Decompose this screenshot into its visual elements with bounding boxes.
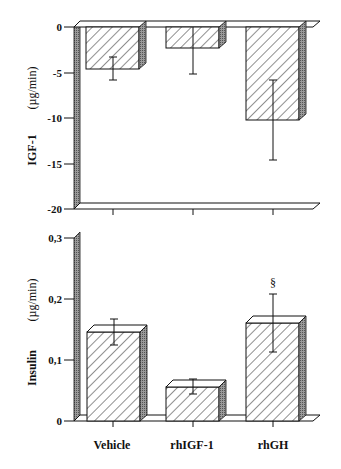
bar-vehicle-insulin xyxy=(87,319,147,421)
insulin-chart: 0 0,1 0,2 0,3 Insulin (µg/min) xyxy=(25,232,320,452)
svg-text:Insulin: Insulin xyxy=(25,350,39,386)
tick-neg15: -15 xyxy=(47,158,62,170)
bar-rhigf1-insulin xyxy=(166,379,226,421)
igf1-y-ticks: 0 -5 -10 -15 -20 xyxy=(47,21,74,215)
svg-text:(µg/min): (µg/min) xyxy=(25,279,39,322)
insulin-y-label: Insulin (µg/min) xyxy=(25,279,39,386)
figure: 0 -5 -10 -15 -20 IGF-1 (µg/min) xyxy=(0,0,341,469)
x-label-vehicle: Vehicle xyxy=(94,438,132,452)
igf1-y-label: IGF-1 (µg/min) xyxy=(25,67,39,166)
zero-plane xyxy=(74,21,320,27)
bar-rhigf1-igf1 xyxy=(166,21,226,74)
left-wall xyxy=(74,21,80,209)
tick-0-3: 0,3 xyxy=(48,232,62,244)
tick-0: 0 xyxy=(57,415,63,427)
significance-mark: § xyxy=(270,276,276,290)
bar-vehicle-igf1 xyxy=(86,21,146,80)
tick-neg5: -5 xyxy=(53,67,63,79)
floor-plane xyxy=(74,203,320,209)
bar-rhgh-igf1 xyxy=(246,21,306,160)
tick-0: 0 xyxy=(57,21,63,33)
tick-neg10: -10 xyxy=(47,112,62,124)
svg-text:IGF-1: IGF-1 xyxy=(25,134,39,165)
insulin-y-ticks: 0 0,1 0,2 0,3 xyxy=(48,232,74,427)
tick-0-2: 0,2 xyxy=(48,293,62,305)
x-label-rhgh: rhGH xyxy=(258,438,289,452)
x-axis-labels: Vehicle rhIGF-1 rhGH xyxy=(94,438,289,452)
x-label-rhigf1: rhIGF-1 xyxy=(170,438,213,452)
svg-text:(µg/min): (µg/min) xyxy=(25,67,39,110)
igf1-chart: 0 -5 -10 -15 -20 IGF-1 (µg/min) xyxy=(25,21,320,215)
tick-neg20: -20 xyxy=(47,203,62,215)
left-wall xyxy=(74,232,80,421)
tick-0-1: 0,1 xyxy=(48,354,62,366)
bar-rhgh-insulin: § xyxy=(246,276,306,421)
